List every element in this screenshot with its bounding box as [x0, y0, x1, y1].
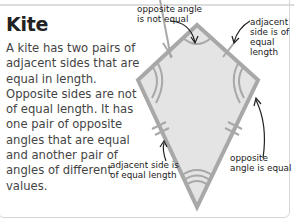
arrow-bottom-left: [160, 141, 167, 161]
label-opposite-angle-equal: opposite angle is equal: [230, 153, 292, 173]
label-adjacent-side-equal-top: adjacent side is of equal length: [250, 17, 290, 57]
arrow-bottom-right: [254, 98, 264, 158]
arrow-top-right: [232, 21, 250, 43]
label-adjacent-side-equal-bottom: adjacent side is of equal length: [110, 160, 180, 180]
label-opposite-angle-not-equal: opposite angle is not equal: [137, 4, 205, 24]
